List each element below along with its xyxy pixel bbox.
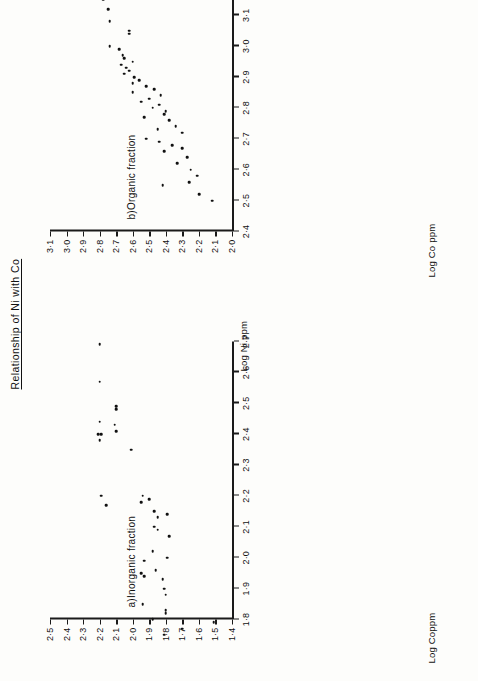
panel-b-data-point xyxy=(186,156,189,159)
panel-a-x-tick xyxy=(234,494,239,495)
panel-a-x-tick xyxy=(234,463,239,464)
panel-b-y-axis-line xyxy=(50,229,232,231)
panel-a-data-point xyxy=(161,578,164,581)
panel-b-data-point xyxy=(108,20,111,23)
panel-a-data-point xyxy=(156,516,159,519)
panel-b-data-point xyxy=(145,85,148,88)
panel-b-y-tick-label: 2·0 xyxy=(227,239,237,265)
panel-b-data-point xyxy=(145,137,148,140)
panel-b-data-point xyxy=(163,149,166,152)
panel-b-data-point xyxy=(176,162,179,165)
panel-b-data-point xyxy=(174,125,177,128)
panel-b-x-tick xyxy=(234,230,239,231)
panel-a-data-point xyxy=(153,525,156,528)
panel-a-data-point xyxy=(166,556,169,559)
panel-a-data-point xyxy=(97,432,100,435)
panel-a-y-tick-label: 1·5 xyxy=(210,627,220,653)
panel-a-x-tick-label: 2·6 xyxy=(241,365,251,379)
panel-a-data-point xyxy=(153,510,156,513)
panel-b-y-tick-label: 3·1 xyxy=(45,239,55,265)
panel-b-data-point xyxy=(189,168,192,171)
figure-sheet: Relationship of Ni with Co a)Inorganic f… xyxy=(0,0,478,681)
panel-a-y-tick-label: 1·9 xyxy=(144,627,154,653)
panel-b-y-tick xyxy=(100,231,101,236)
panel-b-data-point xyxy=(140,100,143,103)
panel-b-x-tick xyxy=(234,106,239,107)
panel-a-y-tick xyxy=(67,619,68,624)
panel-a-y-tick xyxy=(199,619,200,624)
panel-b-x-tick-label: 2·7 xyxy=(241,132,251,146)
panel-a-data-point xyxy=(140,500,143,503)
panel-a-x-tick xyxy=(234,618,239,619)
panel-a-data-point xyxy=(141,602,144,605)
panel-b-x-tick xyxy=(234,199,239,200)
panel-b-y-tick xyxy=(199,231,200,236)
panel-a-x-tick-label: 1·9 xyxy=(241,581,251,595)
panel-b-y-tick-label: 3·0 xyxy=(62,239,72,265)
panel-b-y-axis-label: Log Co ppm xyxy=(426,223,437,277)
panel-b-y-tick xyxy=(67,231,68,236)
panel-a-data-point xyxy=(130,448,133,451)
panel-a-data-point xyxy=(181,627,184,630)
panel-a-y-tick-label: 1·6 xyxy=(194,627,204,653)
panel-b-x-tick xyxy=(234,137,239,138)
panel-a-y-tick xyxy=(116,619,117,624)
panel-b-data-point xyxy=(138,78,141,81)
panel-a-x-tick xyxy=(234,525,239,526)
panel-b-x-tick-label: 2·5 xyxy=(241,193,251,207)
panel-b-data-point xyxy=(153,88,156,91)
panel-a-data-point xyxy=(163,633,166,636)
panel-a-y-axis-line xyxy=(50,617,232,619)
panel-a-y-tick-label: 1·7 xyxy=(177,627,187,653)
panel-b-y-tick xyxy=(50,231,51,236)
panel-b-data-point xyxy=(128,32,131,35)
panel-b-x-tick-label: 2·4 xyxy=(241,224,251,238)
panel-a-y-tick xyxy=(50,619,51,624)
figure-title: Relationship of Ni with Co xyxy=(9,258,21,389)
panel-b-data-point xyxy=(165,109,168,112)
panel-b-y-tick-label: 2·6 xyxy=(128,239,138,265)
panel-b-data-point xyxy=(160,94,163,97)
panel-a-y-tick xyxy=(182,619,183,624)
panel-b-y-tick xyxy=(116,231,117,236)
panel-a-data-point xyxy=(143,559,146,562)
panel-b-data-point xyxy=(148,97,151,100)
panel-b-x-tick xyxy=(234,44,239,45)
panel-a-y-tick-label: 2·4 xyxy=(62,627,72,653)
panel-b-data-point xyxy=(133,75,136,78)
panel-b-data-point xyxy=(158,140,161,143)
panel-a-data-point xyxy=(165,612,168,615)
panel-b-y-tick-label: 2·3 xyxy=(177,239,187,265)
panel-b-data-point xyxy=(181,146,184,149)
panel-a-data-point xyxy=(141,494,144,497)
panel-b-x-axis-line xyxy=(232,0,234,231)
panel-b-x-tick-label: 2·9 xyxy=(241,70,251,84)
panel-b-x-tick-label: 2·6 xyxy=(241,162,251,176)
panel-a-y-tick-label: 1·4 xyxy=(227,627,237,653)
panel-b-x-tick-label: 3·0 xyxy=(241,39,251,53)
panel-a-y-tick-label: 2·0 xyxy=(128,627,138,653)
panel-b-y-tick-label: 2·4 xyxy=(161,239,171,265)
panel-a-data-point xyxy=(163,587,166,590)
panel-a-x-tick-label: 2·7 xyxy=(241,334,251,348)
panel-a-x-tick-label: 2·5 xyxy=(241,396,251,410)
panel-a-data-point xyxy=(98,343,101,346)
panel-b-data-point xyxy=(118,47,121,50)
panel-b-y-tick-label: 2·1 xyxy=(210,239,220,265)
panel-a-data-point xyxy=(105,503,108,506)
panel-b-y-tick xyxy=(182,231,183,236)
panel-b-y-tick-label: 2·7 xyxy=(111,239,121,265)
panel-a-y-tick-label: 2·2 xyxy=(95,627,105,653)
panel-a-data-point xyxy=(115,429,118,432)
panel-b-data-point xyxy=(196,174,199,177)
panel-b-y-tick-label: 2·9 xyxy=(78,239,88,265)
panel-a-x-tick-label: 2·2 xyxy=(241,489,251,503)
panel-b-y-tick xyxy=(149,231,150,236)
panel-b-data-point xyxy=(102,0,105,1)
panel-a-data-point xyxy=(140,571,143,574)
panel-b-data-point xyxy=(143,115,146,118)
panel-a-x-tick-label: 2·4 xyxy=(241,427,251,441)
panel-a-data-point xyxy=(151,550,154,553)
panel-a-x-tick xyxy=(234,371,239,372)
panel-b-data-point xyxy=(125,66,128,69)
